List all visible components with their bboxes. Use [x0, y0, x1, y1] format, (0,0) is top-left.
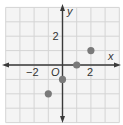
data-point: [45, 90, 52, 97]
x-tick-label: 2: [87, 66, 93, 78]
data-point: [87, 47, 94, 54]
data-point: [59, 76, 66, 83]
x-tick-label: −2: [26, 66, 39, 78]
y-tick-label: 2: [53, 30, 59, 42]
coordinate-plane: x y O −222: [0, 0, 123, 125]
data-point: [73, 61, 80, 68]
x-axis-label: x: [107, 50, 114, 62]
origin-label: O: [51, 66, 60, 78]
